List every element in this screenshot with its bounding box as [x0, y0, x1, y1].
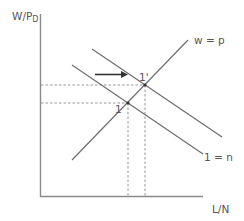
price-setting-line-shifted	[92, 49, 222, 137]
equilibrium-point-1-prime	[143, 83, 146, 86]
price-setting-line-initial	[72, 65, 203, 154]
x-axis-label: L/N	[212, 204, 229, 215]
y-axis-label: W/PD	[12, 11, 38, 24]
shift-arrow-icon	[95, 71, 128, 78]
point-1-prime-label: 1'	[139, 72, 149, 83]
wage-setting-line	[72, 40, 188, 160]
price-setting-line-label: 1 = n	[204, 152, 233, 163]
point-1-label: 1	[115, 104, 122, 115]
labour-market-diagram: W/PD L/N w = p 1 = n 1' 1	[0, 0, 244, 221]
equilibrium-point-1	[126, 101, 129, 104]
wage-setting-line-label: w = p	[194, 35, 225, 46]
